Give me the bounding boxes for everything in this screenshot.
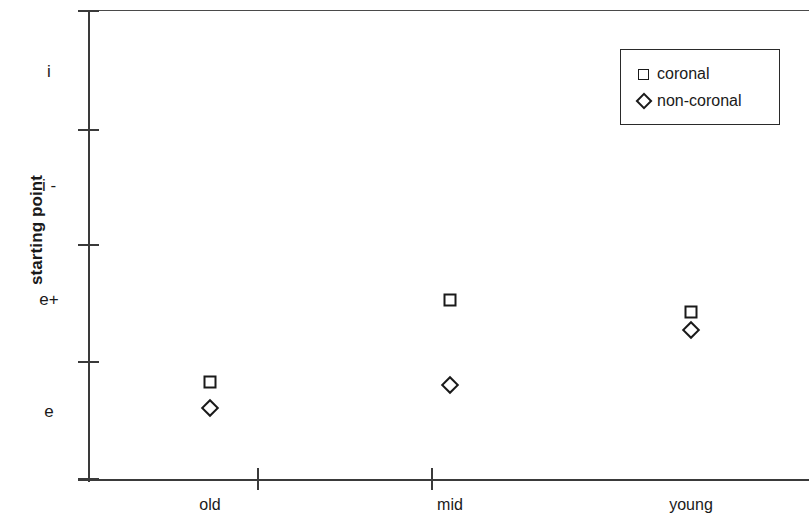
x-axis-category-label-young: young [621,497,761,513]
data-point-non-coronal-old [201,399,219,417]
square-marker-icon [635,63,657,85]
data-point-coronal-young [685,306,698,319]
y-axis-tick [78,361,99,363]
x-axis-category-label-mid: mid [380,497,520,513]
chart-legend: coronal non-coronal [620,49,780,125]
y-axis-tick-label: e+ [20,291,78,308]
data-point-coronal-mid [444,294,457,307]
y-axis-tick-label: e [20,403,78,420]
y-axis-tick [78,244,99,246]
x-axis-category-label-old: old [140,497,280,513]
x-axis-line [78,479,809,481]
y-axis-line [88,10,90,482]
diamond-marker-icon [635,90,657,112]
data-point-non-coronal-young [682,321,700,339]
y-axis-tick-label: i [20,63,78,80]
x-axis-tick [431,468,433,490]
scatter-chart: starting point ii -e+e oldmidyoung coron… [0,0,809,524]
legend-label-non-coronal: non-coronal [657,93,742,109]
data-point-non-coronal-mid [441,376,459,394]
y-axis-tick [78,10,99,12]
y-axis-tick-label: i - [20,177,78,194]
plot-top-border [88,10,809,11]
data-point-coronal-old [204,376,217,389]
y-axis-tick [78,478,99,480]
x-axis-tick [257,468,259,490]
y-axis-tick [78,129,99,131]
legend-label-coronal: coronal [657,66,709,82]
legend-entry-coronal: coronal [635,60,779,87]
legend-entry-non-coronal: non-coronal [635,87,779,114]
